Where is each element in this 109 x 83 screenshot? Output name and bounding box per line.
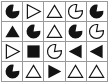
- outline-up-triangle-icon: [46, 23, 63, 40]
- outline-up-triangle-icon: [88, 63, 105, 80]
- filled-right-triangle-icon: [46, 63, 63, 80]
- outline-up-triangle-icon: [25, 63, 42, 80]
- grid-cell: [87, 62, 107, 81]
- filled-pacman-shape: [26, 25, 40, 39]
- filled-pacman-shape: [90, 5, 104, 19]
- filled-right-triangle-shape: [48, 65, 61, 79]
- outline-up-triangle-icon: [67, 63, 84, 80]
- grid-cell: [2, 42, 22, 61]
- filled-left-triangle-shape: [69, 45, 82, 59]
- grid-cell: [44, 22, 64, 41]
- grid-cell: [66, 2, 86, 21]
- grid-cell: [66, 42, 86, 61]
- shape-grid: [1, 1, 108, 82]
- filled-pacman-shape: [69, 25, 83, 39]
- outline-pacman-shape: [48, 45, 62, 59]
- filled-up-triangle-icon: [4, 23, 21, 40]
- filled-pacman-shape: [5, 65, 19, 79]
- filled-pacman-shape: [5, 5, 19, 19]
- outline-pacman-shape: [69, 5, 83, 19]
- grid-cell: [87, 2, 107, 21]
- outline-up-triangle-shape: [47, 25, 61, 37]
- grid-cell: [2, 22, 22, 41]
- outline-right-triangle-shape: [6, 45, 19, 59]
- outline-up-triangle-icon: [46, 3, 63, 20]
- outline-up-triangle-shape: [26, 65, 40, 77]
- outline-right-triangle-icon: [25, 3, 42, 20]
- outline-up-triangle-shape: [69, 65, 83, 77]
- filled-pacman-icon: [4, 63, 21, 80]
- grid-cell: [44, 42, 64, 61]
- filled-left-triangle-icon: [88, 43, 105, 60]
- filled-pacman-icon: [67, 23, 84, 40]
- outline-pacman-shape: [90, 25, 104, 39]
- filled-pacman-icon: [4, 3, 21, 20]
- grid-cell: [23, 2, 43, 21]
- filled-square-shape: [27, 45, 39, 57]
- grid-cell: [66, 62, 86, 81]
- outline-right-triangle-shape: [27, 5, 40, 19]
- grid-cell: [44, 2, 64, 21]
- grid-cell: [2, 2, 22, 21]
- grid-cell: [23, 22, 43, 41]
- grid-cell: [87, 42, 107, 61]
- outline-pacman-icon: [88, 23, 105, 40]
- filled-left-triangle-icon: [67, 43, 84, 60]
- outline-pacman-icon: [67, 3, 84, 20]
- filled-up-triangle-shape: [5, 25, 19, 37]
- outline-right-triangle-icon: [4, 43, 21, 60]
- grid-cell: [87, 22, 107, 41]
- grid-cell: [2, 62, 22, 81]
- filled-pacman-icon: [25, 23, 42, 40]
- grid-cell: [44, 62, 64, 81]
- filled-square-icon: [25, 43, 42, 60]
- outline-pacman-icon: [46, 43, 63, 60]
- filled-pacman-icon: [88, 3, 105, 20]
- outline-up-triangle-shape: [90, 65, 104, 77]
- filled-left-triangle-shape: [90, 45, 103, 59]
- grid-cell: [23, 42, 43, 61]
- outline-up-triangle-shape: [47, 5, 61, 17]
- grid-cell: [66, 22, 86, 41]
- grid-cell: [23, 62, 43, 81]
